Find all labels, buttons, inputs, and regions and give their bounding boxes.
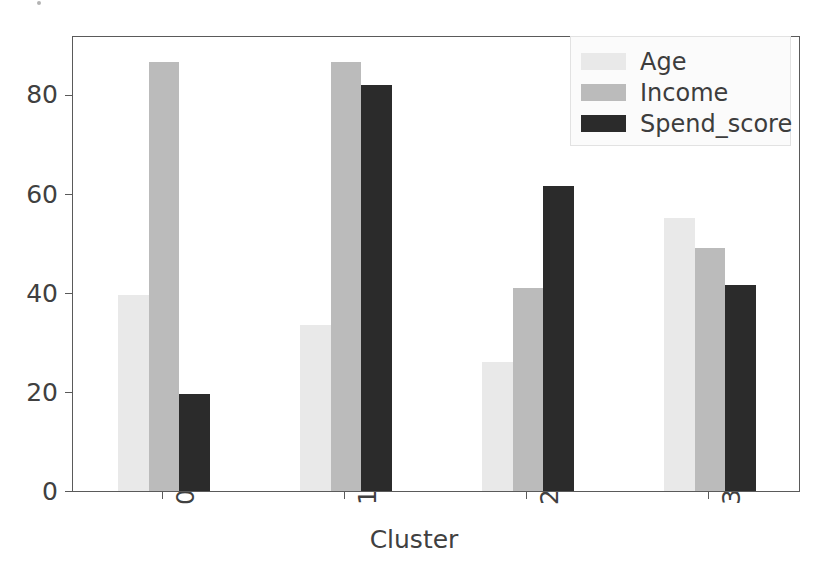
y-axis-tick-mark <box>65 95 72 96</box>
bar-income-cluster-0 <box>149 62 180 491</box>
bar-age-cluster-2 <box>482 362 513 491</box>
y-axis-tick-mark <box>65 194 72 195</box>
bar-chart-figure: 020406080 0123 Cluster Age Income Spend_… <box>0 0 828 574</box>
legend-swatch-income-icon <box>581 84 626 101</box>
y-axis-tick-label: 20 <box>2 380 58 405</box>
chart-legend: Age Income Spend_score <box>570 36 791 146</box>
bar-income-cluster-1 <box>331 62 362 491</box>
x-axis-tick-mark <box>344 492 345 499</box>
bar-income-cluster-3 <box>695 248 726 491</box>
legend-label-spend-score: Spend_score <box>640 112 792 136</box>
bar-age-cluster-0 <box>118 295 149 491</box>
bar-age-cluster-3 <box>664 218 695 491</box>
bar-spend_score-cluster-0 <box>179 394 210 491</box>
y-axis-tick-label: 0 <box>2 479 58 504</box>
x-axis-title: Cluster <box>0 525 828 554</box>
legend-item-income: Income <box>581 77 790 108</box>
bar-income-cluster-2 <box>513 288 544 491</box>
legend-item-age: Age <box>581 46 790 77</box>
bar-spend_score-cluster-3 <box>725 285 756 491</box>
x-axis-tick-mark <box>708 492 709 499</box>
legend-swatch-spend-score-icon <box>581 115 626 132</box>
x-axis-tick-mark <box>162 492 163 499</box>
bar-age-cluster-1 <box>300 325 331 491</box>
legend-label-age: Age <box>640 50 686 74</box>
y-axis-tick-label: 80 <box>2 82 58 107</box>
y-axis-tick-mark <box>65 392 72 393</box>
y-axis-tick-mark <box>65 491 72 492</box>
x-axis-tick-mark <box>526 492 527 499</box>
y-axis-tick-labels: 020406080 <box>0 0 58 574</box>
y-axis-tick-mark <box>65 293 72 294</box>
legend-label-income: Income <box>640 81 728 105</box>
y-axis-tick-label: 40 <box>2 281 58 306</box>
legend-swatch-age-icon <box>581 53 626 70</box>
y-axis-tick-label: 60 <box>2 182 58 207</box>
legend-item-spend-score: Spend_score <box>581 108 790 139</box>
bar-spend_score-cluster-2 <box>543 186 574 491</box>
bar-spend_score-cluster-1 <box>361 85 392 491</box>
